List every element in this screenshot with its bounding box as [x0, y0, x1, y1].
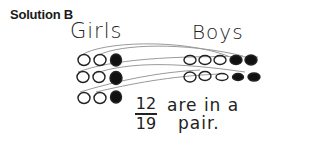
- answer-text-line2: pair.: [178, 113, 220, 133]
- fraction-numerator: 12: [133, 95, 159, 113]
- fraction: 12 19: [133, 95, 159, 133]
- girls-counters: [77, 54, 122, 104]
- answer-text-line1: are in a: [167, 95, 239, 115]
- pairing-lines: [78, 44, 258, 92]
- fraction-denominator: 19: [133, 115, 159, 133]
